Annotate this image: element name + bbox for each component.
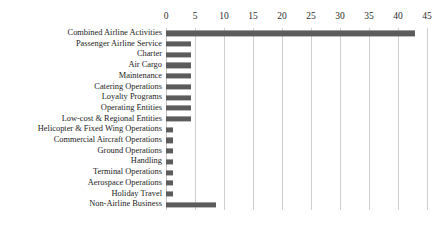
x-tick-label-0: 0 (164, 10, 169, 22)
category-label: Holiday Travel (0, 189, 162, 200)
x-tick-label-45: 45 (422, 10, 432, 22)
category-label: Commercial Aircraft Operations (0, 135, 162, 146)
x-tick-label-20: 20 (277, 10, 287, 22)
bar (166, 31, 415, 36)
x-tick-label-5: 5 (193, 10, 198, 22)
bar-row (166, 178, 427, 189)
x-axis-tick-labels: 051015202530354045 (0, 10, 447, 24)
bar-row (166, 103, 427, 114)
x-tick-label-15: 15 (248, 10, 258, 22)
bar (166, 181, 173, 186)
bar (166, 106, 191, 111)
bar-row (166, 71, 427, 82)
category-axis-labels: Combined Airline ActivitiesPassenger Air… (0, 28, 162, 210)
bar (166, 149, 173, 154)
bar-row (166, 82, 427, 93)
category-label: Non-Airline Business (0, 199, 162, 210)
bar-row (166, 199, 427, 210)
bar (166, 95, 191, 100)
bar-row (166, 124, 427, 135)
plot-area (166, 28, 427, 210)
bar-rows (166, 28, 427, 210)
bar (166, 63, 191, 68)
bar (166, 41, 191, 46)
bar-row (166, 167, 427, 178)
category-label: Terminal Operations (0, 167, 162, 178)
bar (166, 159, 173, 164)
category-label: Catering Operations (0, 82, 162, 93)
bar-row (166, 146, 427, 157)
bar-row (166, 39, 427, 50)
bar-row (166, 135, 427, 146)
category-label: Low-cost & Regional Entities (0, 114, 162, 125)
bar-row (166, 28, 427, 39)
bar (166, 170, 173, 175)
bar (166, 138, 173, 143)
x-tick-label-30: 30 (335, 10, 345, 22)
x-tick-label-10: 10 (219, 10, 229, 22)
category-label: Ground Operations (0, 146, 162, 157)
category-label: Operating Entities (0, 103, 162, 114)
bar-row (166, 49, 427, 60)
category-label: Handling (0, 156, 162, 167)
bar (166, 52, 191, 57)
category-label: Combined Airline Activities (0, 28, 162, 39)
bar (166, 116, 191, 121)
bar (166, 127, 173, 132)
bar-row (166, 92, 427, 103)
x-tick-label-40: 40 (393, 10, 403, 22)
category-label: Loyalty Programs (0, 92, 162, 103)
category-label: Aerospace Operations (0, 178, 162, 189)
horizontal-bar-chart: 051015202530354045 Combined Airline Acti… (0, 0, 447, 230)
category-label: Air Cargo (0, 60, 162, 71)
bar (166, 191, 173, 196)
bar (166, 74, 191, 79)
bar-row (166, 189, 427, 200)
bar (166, 84, 191, 89)
bar-row (166, 114, 427, 125)
x-tick-label-25: 25 (306, 10, 316, 22)
category-label: Maintenance (0, 71, 162, 82)
bar-row (166, 156, 427, 167)
category-label: Charter (0, 49, 162, 60)
x-tick-label-35: 35 (364, 10, 374, 22)
bar-row (166, 60, 427, 71)
category-label: Helicopter & Fixed Wing Operations (0, 124, 162, 135)
gridline-45 (427, 28, 428, 210)
bar (166, 202, 216, 207)
category-label: Passenger Airline Service (0, 39, 162, 50)
